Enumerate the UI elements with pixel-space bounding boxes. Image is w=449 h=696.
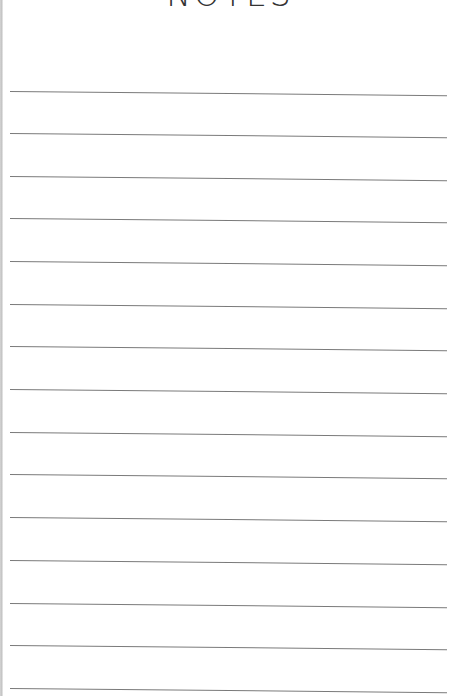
- ruled-line: [10, 389, 447, 394]
- ruled-line: [10, 517, 447, 522]
- ruled-line: [10, 688, 447, 693]
- ruled-line: [10, 474, 447, 479]
- ruled-line: [10, 218, 447, 223]
- ruled-line: [10, 645, 447, 650]
- ruled-line: [10, 304, 447, 309]
- ruled-line: [10, 133, 447, 138]
- ruled-line: [10, 560, 447, 565]
- ruled-line: [10, 91, 447, 96]
- ruled-lines-area: [0, 0, 449, 696]
- ruled-line: [10, 261, 447, 266]
- ruled-line: [10, 176, 447, 181]
- ruled-line: [10, 432, 447, 437]
- ruled-line: [10, 346, 447, 351]
- ruled-line: [10, 603, 447, 608]
